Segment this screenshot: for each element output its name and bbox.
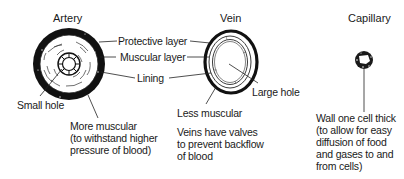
- capillary-note-line: and gases to and: [316, 148, 396, 160]
- capillary-title: Capillary: [348, 12, 391, 24]
- capillary-note-line: (to allow for easy: [316, 124, 396, 136]
- capillary-note-line: diffusion of food: [316, 136, 396, 148]
- small-hole-label: Small hole: [17, 99, 64, 111]
- vein-cross-section: [205, 31, 257, 93]
- large-hole-label: Large hole: [252, 86, 300, 98]
- artery-note-line: More muscular: [70, 120, 158, 132]
- artery-title: Artery: [53, 12, 82, 24]
- muscular-layer-label: Muscular layer: [120, 51, 185, 63]
- protective-layer-label: Protective layer: [118, 35, 187, 47]
- capillary-note-line: Wall one cell thick: [316, 112, 396, 124]
- capillary-note-line: from cells): [316, 160, 396, 172]
- artery-note: More muscular (to withstand higher press…: [70, 120, 158, 156]
- artery-note-line: (to withstand higher: [70, 132, 158, 144]
- lining-label: Lining: [137, 72, 164, 84]
- artery-note-line: pressure of blood): [70, 144, 158, 156]
- capillary-note: Wall one cell thick (to allow for easy d…: [316, 112, 396, 172]
- vein-note-line: to prevent backflow: [177, 138, 264, 150]
- artery-cross-section: [33, 28, 105, 100]
- less-muscular-label: Less muscular: [177, 107, 242, 119]
- vein-note-line: Veins have valves: [177, 126, 264, 138]
- vein-title: Vein: [220, 12, 241, 24]
- capillary-cross-section: [355, 51, 373, 69]
- vein-note: Veins have valves to prevent backflow of…: [177, 126, 264, 162]
- vein-note-line: of blood: [177, 150, 264, 162]
